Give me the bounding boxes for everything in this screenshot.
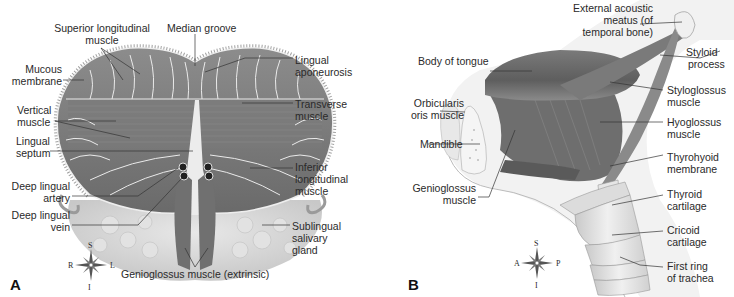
label-mandible: Mandible <box>420 138 463 150</box>
label-inferior-longitudinal-muscle: Inferior longitudinal muscle <box>295 161 348 197</box>
label-lingual-aponeurosis: Lingual aponeurosis <box>295 54 352 78</box>
label-thyroid-cartilage: Thyroid cartilage <box>667 188 707 212</box>
label-genioglossus-extrinsic: Genioglossus muscle (extrinsic) <box>121 268 269 280</box>
label-styloid-process: Styloid process <box>686 46 725 70</box>
compass-a-superior: S <box>88 240 92 252</box>
label-mucous-membrane: Mucous membrane <box>10 63 62 87</box>
label-thyrohyoid-membrane: Thyrohyoid membrane <box>667 151 719 175</box>
label-lingual-septum: Lingual septum <box>16 135 50 159</box>
label-hyoglossus-muscle: Hyoglossus muscle <box>667 116 721 140</box>
label-superior-longitudinal-muscle: Superior longitudinal muscle <box>52 22 152 46</box>
label-deep-lingual-artery: Deep lingual artery <box>4 180 70 204</box>
panel-label-a: A <box>10 276 21 293</box>
label-orbicularis-oris-muscle: Orbicularis oris muscle <box>408 97 464 121</box>
label-vertical-muscle: Vertical muscle <box>17 104 51 128</box>
compass-b-inferior: I <box>535 280 538 292</box>
label-first-ring-of-trachea: First ring of trachea <box>667 260 714 284</box>
label-genioglossus-muscle-b: Genioglossus muscle <box>400 182 476 206</box>
compass-a-left: L <box>110 260 115 272</box>
label-styloglossus-muscle: Styloglossus muscle <box>667 84 726 108</box>
panel-label-b: B <box>408 276 419 293</box>
label-cricoid-cartilage: Cricoid cartilage <box>667 224 707 248</box>
label-body-of-tongue: Body of tongue <box>418 55 489 67</box>
compass-b-posterior: P <box>556 258 560 270</box>
label-sublingual-salivary-gland: Sublingual salivary gland <box>292 220 341 256</box>
panel-b-sagittal <box>428 0 734 297</box>
label-deep-lingual-vein: Deep lingual vein <box>4 209 70 233</box>
label-external-acoustic-meatus: External acoustic meatus (of temporal bo… <box>563 2 653 38</box>
label-median-groove: Median groove <box>167 22 236 34</box>
compass-b-anterior: A <box>514 258 520 270</box>
compass-a-inferior: I <box>88 282 91 294</box>
compass-a-right: R <box>68 260 73 272</box>
compass-rose-b <box>521 247 553 279</box>
label-transverse-muscle: Transverse muscle <box>295 98 347 122</box>
compass-b-superior: S <box>534 238 538 250</box>
